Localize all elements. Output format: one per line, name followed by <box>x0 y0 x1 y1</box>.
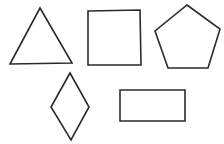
triangle-shape <box>10 8 72 64</box>
rhombus-shape <box>51 73 89 140</box>
rectangle-shape <box>120 90 185 121</box>
square-shape <box>88 10 141 65</box>
shapes-canvas <box>0 0 224 144</box>
pentagon-shape <box>155 5 220 68</box>
